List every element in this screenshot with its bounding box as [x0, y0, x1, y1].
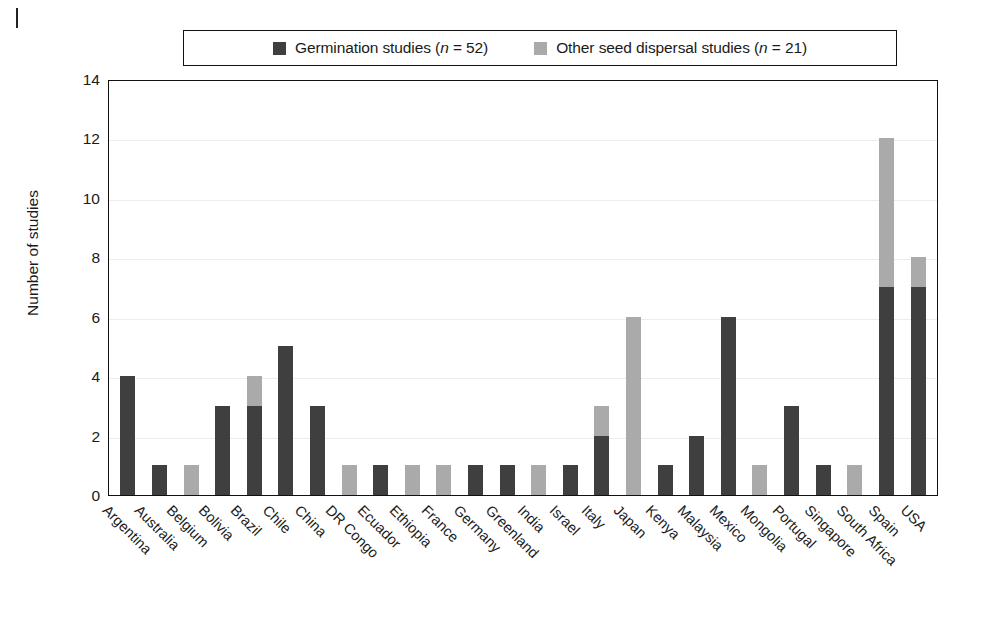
bar-ecuador[interactable]	[373, 465, 388, 495]
legend-item-germination: Germination studies (n = 52)	[273, 39, 488, 57]
y-tick-label: 4	[60, 369, 100, 385]
y-tick-label: 14	[60, 72, 100, 88]
page-edge-mark	[16, 8, 18, 28]
bar-japan[interactable]	[626, 317, 641, 495]
bar-segment-other_dispersal	[247, 376, 262, 406]
bar-belgium[interactable]	[184, 465, 199, 495]
bar-israel[interactable]	[563, 465, 578, 495]
x-tick-label: Japan	[610, 502, 649, 541]
bar-slot	[649, 81, 681, 495]
bar-segment-germination	[373, 465, 388, 495]
bar-slot	[491, 81, 523, 495]
legend-label: Germination studies (n = 52)	[295, 39, 488, 57]
y-tick-label: 2	[60, 429, 100, 445]
bar-segment-other_dispersal	[594, 406, 609, 436]
plot-area	[108, 80, 938, 496]
bar-slot	[207, 81, 239, 495]
bar-segment-germination	[658, 465, 673, 495]
bar-slot	[396, 81, 428, 495]
bar-slot	[839, 81, 871, 495]
bars-group	[109, 81, 937, 495]
bar-segment-other_dispersal	[911, 257, 926, 287]
y-tick-label: 6	[60, 310, 100, 326]
bar-slot	[523, 81, 555, 495]
bar-italy[interactable]	[594, 406, 609, 495]
bar-slot	[270, 81, 302, 495]
y-tick-label: 10	[60, 191, 100, 207]
square-swatch-dark	[273, 42, 286, 55]
bar-segment-germination	[689, 436, 704, 495]
bar-slot	[871, 81, 903, 495]
x-tick-label: Israel	[547, 502, 583, 538]
bar-slot	[238, 81, 270, 495]
bar-slot	[428, 81, 460, 495]
x-tick-label: USA	[898, 502, 930, 534]
bar-greenland[interactable]	[500, 465, 515, 495]
bar-brazil[interactable]	[247, 376, 262, 495]
bar-segment-germination	[247, 406, 262, 495]
bar-india[interactable]	[531, 465, 546, 495]
bar-segment-germination	[784, 406, 799, 495]
bar-segment-germination	[120, 376, 135, 495]
y-tick-label: 12	[60, 131, 100, 147]
figure-container: Germination studies (n = 52)Other seed d…	[0, 0, 998, 624]
legend-item-other_dispersal: Other seed dispersal studies (n = 21)	[534, 39, 807, 57]
bar-segment-germination	[500, 465, 515, 495]
y-tick-label: 0	[60, 488, 100, 504]
bar-south-africa[interactable]	[847, 465, 862, 495]
square-swatch-light	[534, 42, 547, 55]
bar-slot	[365, 81, 397, 495]
x-tick-label: Chile	[259, 502, 294, 537]
bar-segment-other_dispersal	[752, 465, 767, 495]
bar-slot	[681, 81, 713, 495]
bar-kenya[interactable]	[658, 465, 673, 495]
bar-segment-other_dispersal	[531, 465, 546, 495]
bar-segment-germination	[310, 406, 325, 495]
bar-segment-other_dispersal	[184, 465, 199, 495]
bar-singapore[interactable]	[816, 465, 831, 495]
bar-segment-other_dispersal	[342, 465, 357, 495]
bar-slot	[175, 81, 207, 495]
x-axis-labels: ArgentinaAustraliaBelgiumBoliviaBrazilCh…	[108, 496, 938, 624]
bar-slot	[618, 81, 650, 495]
bar-slot	[776, 81, 808, 495]
bar-slot	[713, 81, 745, 495]
bar-segment-germination	[563, 465, 578, 495]
bar-segment-germination	[879, 287, 894, 495]
bar-slot	[460, 81, 492, 495]
bar-segment-germination	[721, 317, 736, 495]
bar-portugal[interactable]	[784, 406, 799, 495]
bar-dr-congo[interactable]	[342, 465, 357, 495]
bar-slot	[333, 81, 365, 495]
bar-segment-other_dispersal	[405, 465, 420, 495]
y-tick-label: 8	[60, 250, 100, 266]
bar-mongolia[interactable]	[752, 465, 767, 495]
bar-argentina[interactable]	[120, 376, 135, 495]
bar-china[interactable]	[310, 406, 325, 495]
bar-spain[interactable]	[879, 138, 894, 495]
x-tick-label: China	[291, 502, 329, 540]
bar-slot	[302, 81, 334, 495]
bar-germany[interactable]	[468, 465, 483, 495]
y-axis-title: Number of studies	[24, 153, 42, 353]
bar-usa[interactable]	[911, 257, 926, 495]
bar-france[interactable]	[436, 465, 451, 495]
bar-bolivia[interactable]	[215, 406, 230, 495]
x-tick-label: Kenya	[642, 502, 682, 542]
bar-segment-germination	[911, 287, 926, 495]
bar-slot	[144, 81, 176, 495]
bar-segment-germination	[468, 465, 483, 495]
bar-australia[interactable]	[152, 465, 167, 495]
bar-ethiopia[interactable]	[405, 465, 420, 495]
bar-segment-germination	[215, 406, 230, 495]
bar-segment-other_dispersal	[436, 465, 451, 495]
bar-segment-other_dispersal	[879, 138, 894, 287]
bar-malaysia[interactable]	[689, 436, 704, 495]
bar-slot	[586, 81, 618, 495]
bar-chile[interactable]	[278, 346, 293, 495]
x-tick-label: Italy	[578, 502, 608, 532]
bar-slot	[744, 81, 776, 495]
bar-segment-germination	[278, 346, 293, 495]
bar-segment-other_dispersal	[847, 465, 862, 495]
bar-mexico[interactable]	[721, 317, 736, 495]
